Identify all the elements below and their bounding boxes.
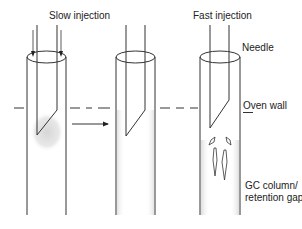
column-fast-injection — [200, 25, 240, 215]
sample-vapor-cloud — [30, 112, 64, 152]
retention-gap-label: retention gap — [245, 192, 302, 203]
gc-column-label: GC column/ — [245, 180, 298, 191]
oven-wall-label-mark — [243, 112, 253, 113]
column-slow-injection — [27, 25, 66, 215]
fast-injection-label: Fast injection — [193, 10, 252, 21]
needle-label: Needle — [242, 42, 274, 53]
column-middle — [116, 25, 155, 215]
slow-injection-label: Slow injection — [49, 10, 110, 21]
flow-arrow-icon — [31, 30, 63, 57]
oven-wall-label: Oven wall — [243, 100, 287, 111]
spray-arrows-icon — [209, 137, 231, 180]
